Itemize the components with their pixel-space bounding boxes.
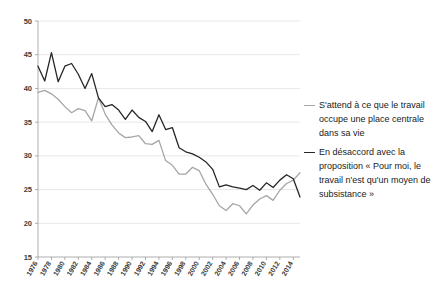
series-line-attente — [38, 90, 300, 213]
x-tick-label: 1978 — [38, 260, 52, 277]
x-tick-label: 1992 — [133, 260, 147, 277]
x-tick-label: 1982 — [65, 260, 79, 277]
x-tick-label: 1976 — [25, 260, 39, 277]
y-tick-label: 30 — [24, 151, 32, 160]
x-tick-label: 1990 — [119, 260, 133, 277]
y-axis-labels: 5045403530252015 — [24, 17, 32, 262]
x-tick-label: 2000 — [186, 260, 200, 277]
y-tick-label: 20 — [24, 219, 32, 228]
legend-item-attente: S'attend à ce que le travail occupe une … — [304, 98, 440, 140]
legend-item-desaccord: En désaccord avec la proposition « Pour … — [304, 145, 440, 201]
x-tick-label: 1994 — [146, 260, 160, 277]
x-tick-label: 2004 — [213, 260, 227, 277]
x-tick-label: 2010 — [253, 260, 267, 277]
legend-label-attente: S'attend à ce que le travail occupe une … — [319, 98, 440, 140]
line-swatch-black-icon — [304, 148, 315, 159]
series-line-desaccord — [38, 53, 300, 197]
x-tick-label: 1986 — [92, 260, 106, 277]
y-tick-label: 40 — [24, 84, 32, 93]
x-tick-label: 1988 — [106, 260, 120, 277]
chart-legend: S'attend à ce que le travail occupe une … — [304, 98, 440, 206]
x-tick-label: 2002 — [200, 260, 214, 277]
x-axis-ticks — [38, 257, 293, 260]
x-axis-labels: 1976197819801982198419861988199019921994… — [25, 260, 294, 277]
gridlines — [35, 21, 300, 257]
x-tick-label: 1998 — [173, 260, 187, 277]
y-tick-label: 45 — [24, 50, 32, 59]
line-swatch-gray-icon — [304, 101, 315, 112]
x-tick-label: 1996 — [159, 260, 173, 277]
legend-label-desaccord: En désaccord avec la proposition « Pour … — [319, 145, 440, 201]
x-tick-label: 2012 — [267, 260, 281, 277]
y-tick-label: 35 — [24, 118, 32, 127]
line-chart: 5045403530252015 19761978198019821984198… — [0, 0, 441, 297]
x-tick-label: 2014 — [280, 260, 294, 277]
x-tick-label: 2008 — [240, 260, 254, 277]
x-tick-label: 2006 — [227, 260, 241, 277]
y-tick-label: 50 — [24, 17, 32, 26]
y-tick-label: 15 — [24, 253, 32, 262]
x-tick-label: 1984 — [79, 260, 93, 277]
x-tick-label: 1980 — [52, 260, 66, 277]
y-tick-label: 25 — [24, 185, 32, 194]
